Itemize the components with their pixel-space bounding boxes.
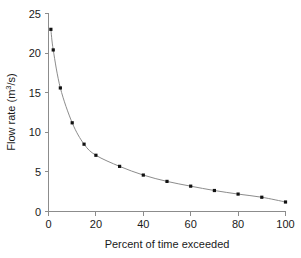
x-tick-label-40: 40	[137, 218, 149, 230]
y-tick-label-15: 15	[29, 87, 41, 99]
axes-group	[45, 14, 286, 216]
x-tick-labels: 0 20 40 60 80 100	[45, 218, 294, 230]
data-point	[165, 180, 168, 183]
x-tick-label-20: 20	[90, 218, 102, 230]
y-tick-labels: 25 20 15 10 5 0	[29, 8, 41, 218]
y-tick-label-20: 20	[29, 47, 41, 59]
data-point	[189, 185, 192, 188]
y-axis-title-main: Flow rate (m	[5, 90, 17, 151]
data-series-group	[49, 28, 287, 204]
data-point	[59, 86, 62, 89]
data-point	[71, 121, 74, 124]
data-markers	[49, 28, 287, 204]
y-tick-label-10: 10	[29, 126, 41, 138]
flow-duration-chart: 25 20 15 10 5 0 0 20 40 60 80 100 Percen…	[0, 0, 301, 258]
y-axis-title: Flow rate (m3/s)	[4, 73, 17, 151]
chart-canvas: 25 20 15 10 5 0 0 20 40 60 80 100 Percen…	[0, 0, 301, 258]
x-tick-label-80: 80	[232, 218, 244, 230]
data-point	[260, 196, 263, 199]
data-point	[213, 189, 216, 192]
y-tick-marks	[45, 14, 49, 212]
x-tick-marks	[49, 212, 286, 216]
data-point	[284, 200, 287, 203]
data-point	[52, 48, 55, 51]
data-point	[94, 154, 97, 157]
data-point	[49, 28, 52, 31]
x-tick-label-0: 0	[45, 218, 51, 230]
y-axis-title-tail: /s)	[5, 73, 17, 85]
x-tick-label-100: 100	[276, 218, 294, 230]
y-tick-label-0: 0	[35, 206, 41, 218]
svg-text:Flow rate (m3/s): Flow rate (m3/s)	[4, 73, 17, 151]
y-tick-label-5: 5	[35, 166, 41, 178]
data-point	[142, 173, 145, 176]
data-point	[118, 165, 121, 168]
x-axis-title: Percent of time exceeded	[105, 238, 230, 250]
data-point	[82, 143, 85, 146]
data-line	[51, 29, 286, 202]
data-point	[237, 192, 240, 195]
y-tick-label-25: 25	[29, 8, 41, 20]
x-tick-label-60: 60	[185, 218, 197, 230]
